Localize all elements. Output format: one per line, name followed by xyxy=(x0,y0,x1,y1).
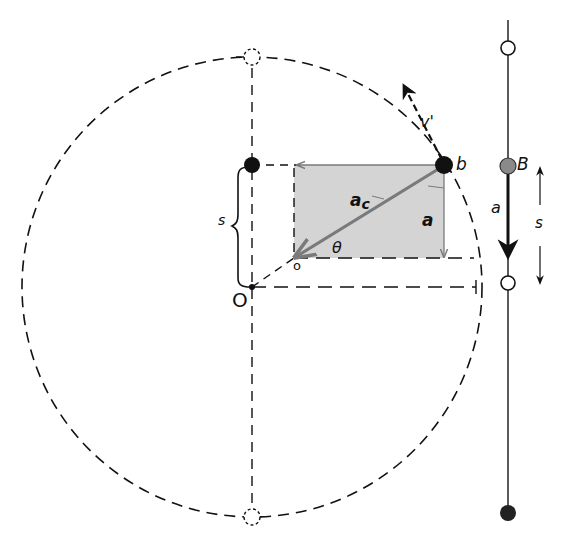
point-b xyxy=(435,156,453,174)
rod-bottom-filled-circle xyxy=(500,505,516,521)
point-B xyxy=(500,158,516,174)
label-b: b xyxy=(456,154,467,174)
circular-motion-diagram xyxy=(0,0,565,544)
bottom-marker-dashed xyxy=(244,509,260,525)
label-s-right: s xyxy=(535,214,543,232)
projection-dot-on-diameter xyxy=(244,157,260,173)
label-O: O xyxy=(232,288,248,312)
label-a-line: a xyxy=(491,198,501,217)
label-ac: ac xyxy=(350,190,370,210)
o-to-rect-origin xyxy=(252,258,294,287)
displacement-brace xyxy=(232,167,250,287)
label-theta: θ xyxy=(332,238,342,257)
label-o: o xyxy=(293,258,301,273)
rod-mid-open-circle xyxy=(501,276,515,290)
label-a-rect: a xyxy=(422,210,433,230)
top-marker-dashed xyxy=(244,49,260,65)
label-ac-main: a xyxy=(350,190,361,210)
label-ac-sub: c xyxy=(361,196,369,212)
label-B: B xyxy=(517,154,529,174)
label-s-left: s xyxy=(218,212,225,228)
rod-top-open-circle xyxy=(501,41,515,55)
center-dot xyxy=(249,284,255,290)
label-v-prime: v' xyxy=(420,112,434,131)
